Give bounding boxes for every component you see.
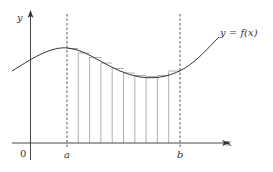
partition-rectangles (67, 49, 180, 144)
riemann-sum-diagram: y x 0 a b y = f(x) (0, 0, 273, 172)
b-label: b (177, 149, 183, 160)
a-label: a (64, 149, 70, 160)
x-axis-label: x (226, 137, 232, 148)
function-label: y = f(x) (219, 27, 258, 38)
y-axis-label: y (16, 12, 23, 23)
origin-label: 0 (20, 148, 26, 159)
function-curve (12, 37, 219, 78)
